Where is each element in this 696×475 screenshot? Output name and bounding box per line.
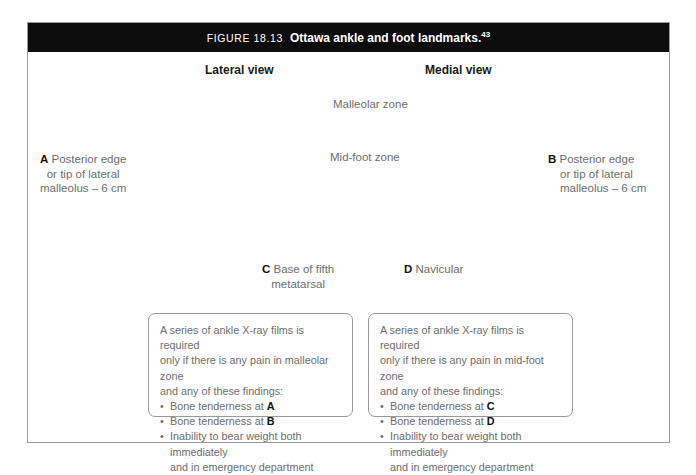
landmark-a-line3: malleolus – 6 cm (40, 181, 126, 196)
landmark-b-line3: malleolus – 6 cm (548, 181, 646, 196)
landmark-d-line1: Navicular (416, 263, 464, 275)
landmark-c-line1: Base of fifth (274, 263, 335, 275)
criteria-malleolar-item1-letter: A (267, 400, 275, 412)
landmark-callout-a: A Posterior edge or tip of lateral malle… (40, 152, 126, 196)
criteria-malleolar-list: Bone tenderness at A Bone tenderness at … (160, 399, 342, 475)
criteria-midfoot-intro-line1: A series of ankle X-ray films is require… (380, 323, 562, 353)
landmark-c-line2: metatarsal (262, 277, 334, 292)
criteria-box-malleolar: A series of ankle X-ray films is require… (148, 313, 353, 417)
criteria-box-midfoot: A series of ankle X-ray films is require… (368, 313, 573, 417)
list-item: Bone tenderness at B (160, 414, 342, 429)
criteria-midfoot-intro-line3: and any of these findings: (380, 384, 562, 399)
figure-header: FIGURE 18.13 Ottawa ankle and foot landm… (28, 23, 669, 52)
criteria-malleolar-intro-line2: only if there is any pain in malleolar z… (160, 353, 342, 383)
criteria-midfoot-intro: A series of ankle X-ray films is require… (380, 323, 562, 399)
landmark-callout-d: D Navicular (404, 262, 463, 277)
list-item: Bone tenderness at C (380, 399, 562, 414)
criteria-midfoot-item1-text: Bone tenderness at (390, 400, 487, 412)
criteria-midfoot-list: Bone tenderness at C Bone tenderness at … (380, 399, 562, 475)
landmark-callout-c: C Base of fifth metatarsal (262, 262, 334, 291)
criteria-malleolar-item3-text: Inability to bear weight both immediatel… (170, 430, 301, 457)
list-item: Bone tenderness at A (160, 399, 342, 414)
criteria-midfoot-item3-text: Inability to bear weight both immediatel… (390, 430, 521, 457)
figure-title: Ottawa ankle and foot landmarks.43 (290, 30, 490, 45)
criteria-malleolar-item2-text: Bone tenderness at (170, 415, 267, 427)
criteria-midfoot-item3-cont: and in emergency department (390, 460, 562, 475)
landmark-a-letter: A (40, 153, 48, 165)
landmark-b-line2: or tip of lateral (548, 167, 646, 182)
criteria-midfoot-item2-text: Bone tenderness at (390, 415, 487, 427)
criteria-malleolar-item3-cont: and in emergency department (170, 460, 342, 475)
figure-title-text: Ottawa ankle and foot landmarks. (290, 31, 481, 45)
criteria-midfoot-intro-line2: only if there is any pain in mid-foot zo… (380, 353, 562, 383)
figure-number: FIGURE 18.13 (207, 32, 283, 44)
landmark-a-line1: Posterior edge (52, 153, 127, 165)
landmark-b-line1: Posterior edge (560, 153, 635, 165)
landmark-c-letter: C (262, 263, 270, 275)
list-item: Bone tenderness at D (380, 414, 562, 429)
criteria-midfoot-item2-letter: D (487, 415, 495, 427)
zone-label-malleolar: Malleolar zone (333, 98, 408, 110)
criteria-malleolar-intro-line1: A series of ankle X-ray films is require… (160, 323, 342, 353)
zone-label-midfoot: Mid-foot zone (330, 151, 400, 163)
list-item: Inability to bear weight both immediatel… (380, 429, 562, 475)
list-item: Inability to bear weight both immediatel… (160, 429, 342, 475)
criteria-malleolar-item2-letter: B (267, 415, 275, 427)
landmark-d-letter: D (404, 263, 412, 275)
view-title-medial: Medial view (425, 63, 492, 77)
criteria-malleolar-intro-line3: and any of these findings: (160, 384, 342, 399)
criteria-midfoot-item1-letter: C (487, 400, 495, 412)
landmark-callout-b: B Posterior edge or tip of lateral malle… (548, 152, 646, 196)
criteria-malleolar-item1-text: Bone tenderness at (170, 400, 267, 412)
landmark-b-letter: B (548, 153, 556, 165)
landmark-a-line2: or tip of lateral (40, 167, 126, 182)
criteria-malleolar-intro: A series of ankle X-ray films is require… (160, 323, 342, 399)
view-title-lateral: Lateral view (205, 63, 274, 77)
figure-reference: 43 (481, 30, 490, 39)
